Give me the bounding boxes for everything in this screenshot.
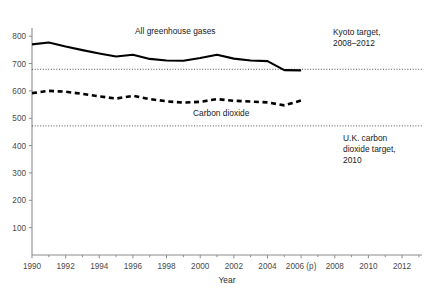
y-tick-label: 700 — [12, 60, 26, 69]
x-tick-label: 1990 — [23, 262, 42, 271]
x-tick-label: 2010 — [359, 262, 378, 271]
emissions-line-chart: 1002003004005006007008001990199219941996… — [0, 0, 442, 295]
uk-target-label-line1: U.K. carbon — [343, 133, 388, 143]
x-tick-label: 1992 — [57, 262, 76, 271]
series-all-greenhouse-gases — [32, 42, 301, 70]
x-tick-label: 2002 — [225, 262, 244, 271]
x-tick-label: 2008 — [326, 262, 345, 271]
x-tick-label: 2004 — [258, 262, 277, 271]
y-tick-label: 600 — [12, 87, 26, 96]
x-tick-label: 1998 — [157, 262, 176, 271]
series-carbon-dioxide — [32, 91, 301, 106]
chart-container: 1002003004005006007008001990199219941996… — [0, 0, 442, 295]
all-greenhouse-gases-label: All greenhouse gases — [135, 26, 216, 36]
carbon-dioxide-label: Carbon dioxide — [193, 108, 250, 118]
kyoto-target-label-line1: Kyoto target, — [333, 27, 381, 37]
x-tick-label: 2006 (p) — [286, 262, 317, 271]
y-tick-label: 800 — [12, 32, 26, 41]
uk-target-label-line2: dioxide target, — [343, 144, 396, 154]
x-axis-title: Year — [219, 275, 236, 285]
y-tick-label: 400 — [12, 142, 26, 151]
x-tick-label: 1996 — [124, 262, 143, 271]
y-tick-label: 100 — [12, 224, 26, 233]
x-tick-label: 2012 — [393, 262, 412, 271]
data-series-layer — [32, 42, 301, 105]
y-tick-label: 200 — [12, 196, 26, 205]
labels-layer: YearAll greenhouse gasesCarbon dioxideKy… — [135, 26, 396, 285]
kyoto-target-label-line2: 2008–2012 — [333, 38, 375, 48]
x-tick-label: 2000 — [191, 262, 210, 271]
y-tick-label: 300 — [12, 169, 26, 178]
uk-target-label-line3: 2010 — [343, 155, 362, 165]
x-tick-label: 1994 — [90, 262, 109, 271]
y-tick-label: 500 — [12, 114, 26, 123]
